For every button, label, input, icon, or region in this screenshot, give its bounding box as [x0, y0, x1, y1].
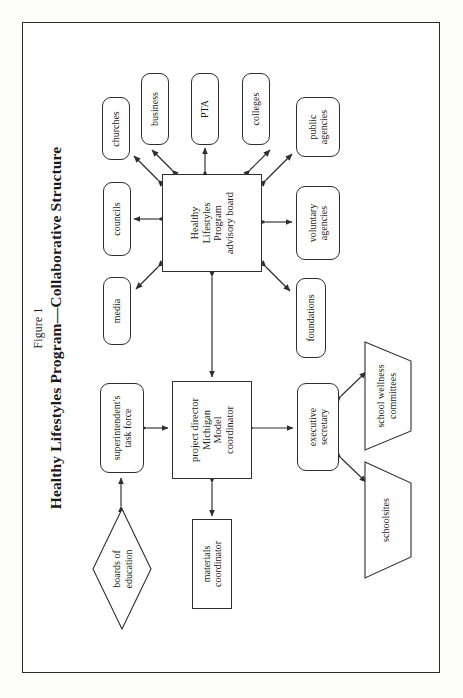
advisory-board-line4: advisory board — [224, 192, 235, 254]
node-boards-of-education[interactable]: boards of education — [92, 508, 152, 630]
project-director-line1: project director — [189, 398, 200, 462]
node-media-label: media — [111, 299, 122, 323]
materials-line1: materials — [201, 546, 212, 583]
node-voluntary-agencies-line1: voluntary — [307, 204, 318, 242]
node-boards-of-education-label: boards of education — [111, 550, 134, 589]
node-pta[interactable]: PTA — [191, 73, 219, 145]
node-churches-label: churches — [110, 111, 121, 147]
exec-secretary-line1: executive — [307, 408, 318, 446]
node-project-director[interactable]: project director Michigan Model coordina… — [172, 381, 252, 479]
node-executive-secretary[interactable]: executive secretary — [297, 383, 339, 471]
project-director-line4: coordinator — [224, 406, 235, 454]
node-executive-secretary-label: executive secretary — [307, 408, 329, 446]
node-schoolsites-label: schoolsites — [380, 498, 392, 542]
project-director-line3: Model — [212, 416, 223, 443]
node-materials-coordinator-label: materials coordinator — [201, 541, 223, 587]
node-schoolsites[interactable]: schoolsites — [364, 461, 412, 579]
node-project-director-label: project director Michigan Model coordina… — [189, 398, 236, 462]
wellness-line1: school wellness — [375, 364, 386, 427]
node-colleges[interactable]: colleges — [242, 73, 270, 145]
advisory-board-line1: Healthy — [189, 207, 200, 240]
taskforce-line2: task force — [122, 408, 133, 447]
node-foundations-label: foundations — [305, 294, 316, 341]
node-advisory-board[interactable]: Healthy Lifestyles Program advisory boar… — [162, 174, 262, 272]
wellness-line2: committees — [386, 373, 397, 419]
figure-number: Figure 1 — [31, 8, 46, 648]
node-superintendents-task-force-label: superintendent's task force — [111, 396, 133, 461]
node-business[interactable]: business — [141, 73, 169, 145]
node-school-wellness-committees-label: school wellness committees — [375, 364, 398, 427]
node-public-agencies-line1: public — [307, 115, 318, 140]
node-business-label: business — [149, 92, 160, 126]
node-colleges-label: colleges — [250, 93, 261, 126]
node-councils[interactable]: councils — [103, 182, 131, 256]
boards-line2: education — [122, 550, 133, 589]
node-public-agencies[interactable]: public agencies — [296, 97, 340, 157]
node-superintendents-task-force[interactable]: superintendent's task force — [100, 383, 144, 473]
node-councils-label: councils — [111, 202, 122, 235]
node-voluntary-agencies-label: voluntary agencies — [307, 204, 329, 242]
node-pta-label: PTA — [199, 100, 210, 118]
materials-line2: coordinator — [212, 541, 223, 587]
node-public-agencies-label: public agencies — [307, 110, 329, 144]
exec-secretary-line2: secretary — [318, 409, 329, 445]
project-director-line2: Michigan — [200, 410, 211, 450]
boards-line1: boards of — [111, 550, 122, 588]
taskforce-line1: superintendent's — [111, 396, 122, 461]
node-voluntary-agencies[interactable]: voluntary agencies — [296, 186, 340, 260]
node-churches[interactable]: churches — [102, 97, 130, 160]
figure-title-block: Figure 1 Healthy Lifestyles Program—Coll… — [31, 8, 93, 648]
advisory-board-line3: Program — [212, 205, 223, 241]
figure-caption: Healthy Lifestyles Program—Collaborative… — [46, 8, 65, 648]
node-media[interactable]: media — [103, 277, 131, 345]
node-advisory-board-label: Healthy Lifestyles Program advisory boar… — [189, 192, 236, 254]
node-voluntary-agencies-line2: agencies — [318, 206, 329, 240]
figure-page: Figure 1 Healthy Lifestyles Program—Coll… — [0, 0, 463, 698]
advisory-board-line2: Lifestyles — [200, 203, 211, 244]
node-foundations[interactable]: foundations — [296, 278, 326, 358]
node-public-agencies-line2: agencies — [318, 110, 329, 144]
node-materials-coordinator[interactable]: materials coordinator — [192, 519, 232, 609]
node-school-wellness-committees[interactable]: school wellness committees — [364, 341, 412, 451]
